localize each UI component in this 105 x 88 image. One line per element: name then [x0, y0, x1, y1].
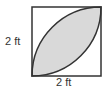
left-side-length-label: 2 ft [5, 36, 20, 47]
shaded-lens-region [32, 7, 101, 76]
bottom-side-length-label: 2 ft [56, 77, 71, 88]
geometry-figure: 2 ft 2 ft [0, 0, 105, 88]
